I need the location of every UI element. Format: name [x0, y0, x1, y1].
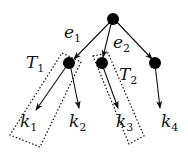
edge-n1-k2 [70, 64, 79, 108]
node-n3 [149, 57, 161, 69]
edge-n3-k4 [155, 64, 160, 108]
tree-diagram: e1 e2 T1 T2 k1 k2 k3 k4 [0, 0, 188, 152]
edge-label-e2: e2 [113, 32, 130, 55]
edge-label-e1: e1 [64, 22, 81, 45]
subtree-label-t1: T1 [26, 52, 44, 75]
node-root [107, 13, 119, 25]
leaf-k1: k1 [20, 111, 37, 134]
leaf-k4: k4 [161, 111, 178, 134]
node-n2 [96, 57, 108, 69]
node-n1 [63, 57, 75, 69]
edge-n2-k3 [102, 64, 118, 108]
subtree-label-t2: T2 [119, 64, 137, 87]
edge-root-n2 [103, 20, 112, 57]
leaf-k3: k3 [116, 111, 133, 134]
leaf-k2: k2 [69, 111, 86, 134]
